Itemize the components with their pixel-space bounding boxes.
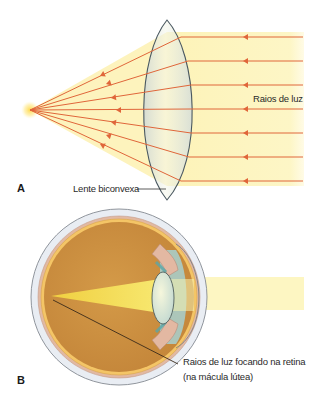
focus-label-line1: Raios de luz focando na retina — [183, 356, 305, 367]
focus-label-line2: (na mácula lútea) — [183, 371, 253, 382]
panel-a — [21, 20, 304, 200]
optics-diagram — [0, 0, 319, 403]
crystalline-lens — [152, 272, 174, 324]
panel-b-letter: B — [17, 374, 25, 386]
lens-label: Lente biconvexa — [73, 183, 139, 194]
rays-label: Raios de luz — [253, 93, 303, 104]
panel-a-letter: A — [17, 182, 25, 194]
